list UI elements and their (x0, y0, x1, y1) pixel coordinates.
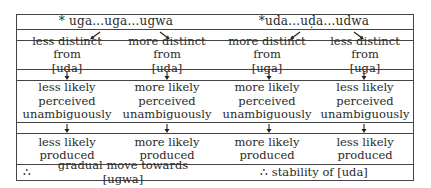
perception-line: unambiguously (23, 107, 112, 121)
header-row: * uga...uga...ugwa *uda...uḍa...udwa (17, 15, 413, 30)
perception-line: perceived (336, 94, 393, 108)
perception-cell: more likelyperceivedunambiguously (217, 81, 317, 122)
right-header: *uda...uḍa...udwa (215, 15, 413, 29)
production-line: less likely (38, 135, 95, 149)
production-line: less likely (336, 135, 393, 149)
production-line: more likely (134, 135, 199, 149)
distinctness-text: less distinct from (330, 34, 400, 62)
perception-line: perceived (238, 94, 295, 108)
distinctness-cell: less distinct from[uda] (17, 41, 117, 69)
perception-line: unambiguously (123, 107, 212, 121)
diagram-table: * uga...uga...ugwa *uda...uḍa...udwa les… (16, 14, 414, 181)
production-line: produced (337, 148, 392, 162)
arrow-down-icon (157, 70, 177, 80)
left-header-cell: * uga...uga...ugwa (17, 15, 215, 29)
perception-cell: less likelyperceivedunambiguously (317, 81, 413, 122)
arrow-down-icon (354, 123, 374, 133)
perception-line: perceived (138, 94, 195, 108)
right-conclusion: ∴ stability of [uda] (215, 165, 413, 180)
distinctness-cell: more distinct from[uda] (117, 41, 217, 69)
production-cell: less likelyproduced (317, 134, 413, 164)
arrow-down-icon (259, 123, 279, 133)
perception-cell: more likelyperceivedunambiguously (117, 81, 217, 122)
production-line: produced (239, 148, 294, 162)
perception-line: less likely (38, 80, 95, 94)
down-arrow-row (17, 123, 413, 134)
arrow-down-icon (157, 123, 177, 133)
right-header-cell: *uda...uḍa...udwa (215, 15, 413, 29)
distinctness-cell: more distinct from[uga] (217, 41, 317, 69)
right-conclusion-cell: ∴ stability of [uda] (215, 165, 413, 180)
perception-cell: less likelyperceivedunambiguously (17, 81, 117, 122)
perception-line: perceived (38, 94, 95, 108)
perception-line: more likely (234, 80, 299, 94)
conclusion-row: ∴ gradual move towards [ugwa] ∴ stabilit… (17, 165, 413, 180)
arrow-down-icon (354, 70, 374, 80)
distinctness-text: more distinct from (128, 34, 206, 62)
left-conclusion: gradual move towards [ugwa] (45, 165, 201, 180)
distinctness-row: less distinct from[uda] more distinct fr… (17, 41, 413, 70)
production-cell: more likelyproduced (217, 134, 317, 164)
perception-line: unambiguously (321, 107, 410, 121)
arrow-down-icon (57, 123, 77, 133)
distinctness-text: more distinct from (228, 34, 306, 62)
left-conclusion-cell: ∴ gradual move towards [ugwa] (17, 165, 215, 180)
perception-row: less likelyperceivedunambiguously more l… (17, 81, 413, 123)
distinctness-text: less distinct from (32, 34, 102, 62)
arrow-down-icon (57, 70, 77, 80)
distinctness-cell: less distinct from[uga] (317, 41, 413, 69)
left-header: * uga...uga...ugwa (17, 15, 215, 29)
arrow-down-icon (259, 70, 279, 80)
therefore-symbol: ∴ (23, 165, 43, 180)
perception-line: unambiguously (223, 107, 312, 121)
perception-line: more likely (134, 80, 199, 94)
production-line: more likely (234, 135, 299, 149)
perception-line: less likely (336, 80, 393, 94)
